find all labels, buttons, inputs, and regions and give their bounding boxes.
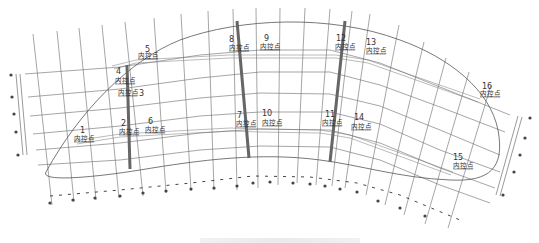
control-point-13: 13内控点 [366,38,387,55]
control-point-diagram: 1内控点 2内控点 3内控点 4内控点 5内控点 6内控点 7内控点 8内控点 … [0,0,539,243]
axis-markers-right [501,116,531,196]
svg-text:内控点: 内控点 [351,122,372,131]
svg-text:内控点: 内控点 [262,118,283,127]
svg-text:内控点: 内控点 [229,43,250,52]
svg-text:内控点: 内控点 [335,42,356,51]
svg-text:2: 2 [121,119,126,128]
control-point-6: 6内控点 [145,117,166,134]
control-point-15: 15内控点 [453,153,474,170]
bar-middle [237,21,249,158]
svg-text:内控点: 内控点 [480,89,501,98]
control-point-4: 4内控点 [115,67,136,85]
svg-text:内控点: 内控点 [322,118,343,127]
figure-caption [200,238,360,243]
control-point-9: 9内控点 [260,34,281,51]
control-point-14: 14内控点 [351,113,372,131]
svg-text:内控点: 内控点 [138,51,159,60]
svg-text:13: 13 [366,38,376,47]
control-point-11: 11内控点 [322,110,343,127]
svg-text:内控点: 内控点 [453,161,474,170]
svg-text:1: 1 [80,126,85,135]
control-point-12: 12内控点 [335,34,356,51]
axis-markers-bottom [48,180,426,217]
svg-text:9: 9 [264,34,269,43]
svg-text:12: 12 [336,34,346,43]
svg-text:内控点: 内控点 [119,127,140,136]
svg-text:内控点: 内控点 [260,42,281,51]
svg-text:6: 6 [148,117,153,126]
svg-text:内控点: 内控点 [366,46,387,55]
svg-text:8: 8 [229,35,234,44]
axis-right-lines [496,116,522,196]
axis-dash-bottom [50,176,460,220]
svg-text:3: 3 [139,89,144,98]
svg-text:内控点: 内控点 [118,88,139,97]
control-point-3: 3内控点 [118,88,144,98]
svg-text:内控点: 内控点 [115,76,136,85]
svg-text:14: 14 [354,113,364,122]
axis-markers-left [9,73,19,156]
svg-text:11: 11 [325,110,335,119]
svg-text:15: 15 [453,153,463,162]
svg-text:内控点: 内控点 [236,119,257,128]
axis-left-lines [16,74,27,155]
control-point-16: 16内控点 [480,82,501,98]
svg-text:4: 4 [116,67,121,76]
svg-text:内控点: 内控点 [74,134,95,143]
svg-text:内控点: 内控点 [145,125,166,134]
svg-text:10: 10 [262,109,272,118]
svg-text:7: 7 [237,111,242,120]
